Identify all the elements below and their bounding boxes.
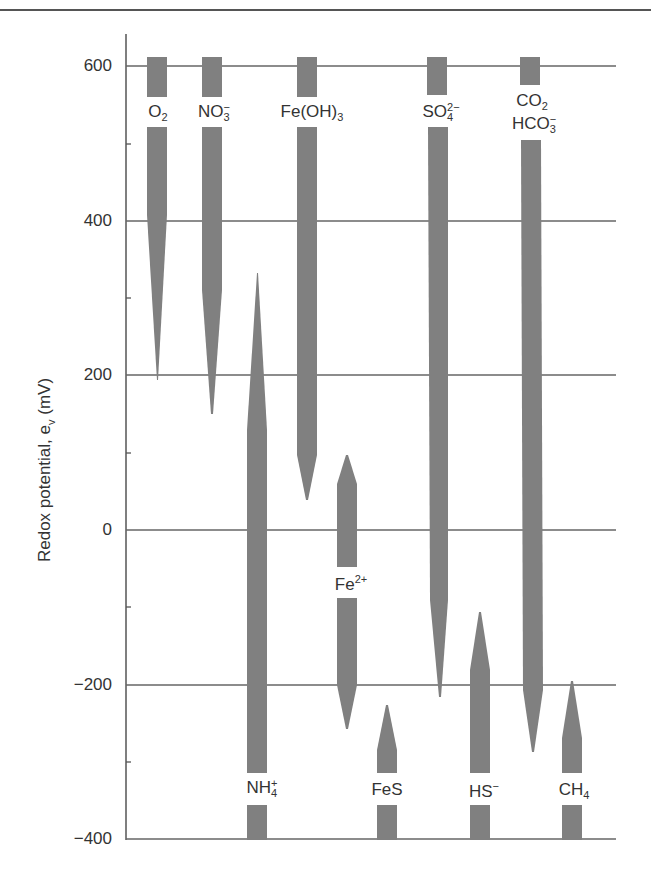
ytick-0: 0 [52, 520, 112, 540]
ytick-neg400: −400 [52, 829, 112, 849]
bar-no3 [202, 127, 222, 414]
label-hco3: HCO−3 [512, 115, 556, 135]
gridlines [126, 66, 616, 839]
bar-ch4-bottom [562, 805, 582, 840]
label-nh4: NH+4 [247, 779, 278, 799]
bar-so4-top [427, 57, 447, 95]
bar-nh4 [247, 273, 267, 773]
label-no3: NO−3 [198, 103, 230, 123]
ytick-neg200: −200 [52, 675, 112, 695]
label-o2: O2 [148, 103, 167, 123]
ytick-200: 200 [52, 365, 112, 385]
label-ch4: CH4 [559, 781, 590, 801]
bar-no3-top [202, 57, 222, 97]
label-co2: CO2 [516, 92, 548, 112]
label-fe2: Fe2+ [335, 574, 367, 593]
label-feoh3: Fe(OH)3 [281, 103, 344, 123]
bar-o2-top [147, 57, 167, 97]
bars [147, 57, 582, 840]
bar-ch4 [562, 681, 582, 773]
ytick-600: 600 [52, 56, 112, 76]
bar-feoh3 [297, 127, 317, 500]
bar-o2 [147, 127, 167, 380]
label-hs: HS− [469, 781, 499, 800]
bar-so4 [428, 127, 448, 697]
bar-fe2-bottom [337, 598, 357, 729]
bar-fe2-top [337, 455, 357, 567]
ytick-400: 400 [52, 211, 112, 231]
bar-fes [377, 705, 397, 773]
bar-nh4-bottom [247, 805, 267, 840]
label-so4: SO2−4 [422, 103, 459, 123]
bar-co2 [521, 140, 543, 752]
bar-hs-bottom [470, 805, 490, 840]
label-fes: FeS [371, 781, 402, 798]
bar-feoh3-top [297, 57, 317, 97]
bar-co2-top [520, 57, 540, 85]
bar-hs [470, 612, 490, 773]
bar-fes-bottom [377, 805, 397, 840]
y-axis-label: Redox potential, ev (mV) [35, 378, 56, 562]
